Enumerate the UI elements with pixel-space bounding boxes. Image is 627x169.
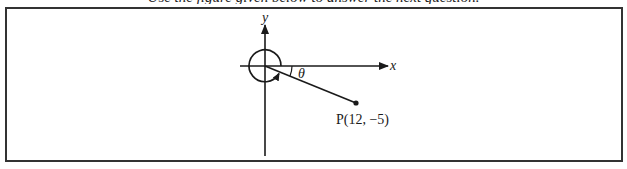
y-axis-label: y xyxy=(260,10,269,25)
theta-label: θ xyxy=(298,66,305,81)
point-p-label: P(12, −5) xyxy=(336,112,389,128)
theta-arc xyxy=(290,66,292,76)
point-p-marker xyxy=(353,100,358,105)
angle-diagram: x y P(12, −5) θ xyxy=(0,0,627,169)
terminal-ray xyxy=(265,66,356,103)
x-axis-label: x xyxy=(389,58,397,73)
